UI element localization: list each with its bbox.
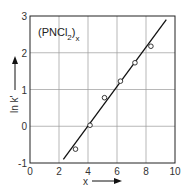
- y-tick-label: 3: [21, 11, 27, 22]
- x-label-text: x: [83, 176, 88, 187]
- y-tick-label: 1: [21, 85, 27, 96]
- x-tick-label: 10: [169, 166, 181, 177]
- data-point: [102, 95, 107, 100]
- y-tick-label: 0: [21, 121, 27, 132]
- x-tick-label: 2: [56, 166, 62, 177]
- x-arrow-head-icon: [114, 178, 122, 184]
- y-arrow-head-icon: [12, 56, 18, 64]
- data-point: [118, 79, 123, 84]
- x-tick-label: 6: [114, 166, 120, 177]
- y-label-text: ln k': [9, 95, 20, 113]
- chart: 0246810 -10123 (PNCl2)x ln k' x: [0, 0, 186, 190]
- x-axis-label: x: [83, 176, 122, 187]
- y-tick-label: 2: [21, 48, 27, 59]
- y-tick-labels: -10123: [18, 11, 27, 169]
- data-point: [133, 60, 138, 65]
- x-tick-label: 0: [27, 166, 33, 177]
- x-tick-label: 8: [143, 166, 149, 177]
- x-tick-labels: 0246810: [27, 166, 181, 177]
- y-tick-label: -1: [18, 158, 27, 169]
- data-point: [88, 123, 93, 128]
- data-points: [73, 44, 153, 152]
- data-point: [149, 44, 154, 49]
- data-point: [73, 147, 78, 152]
- y-axis-label: ln k': [9, 56, 20, 113]
